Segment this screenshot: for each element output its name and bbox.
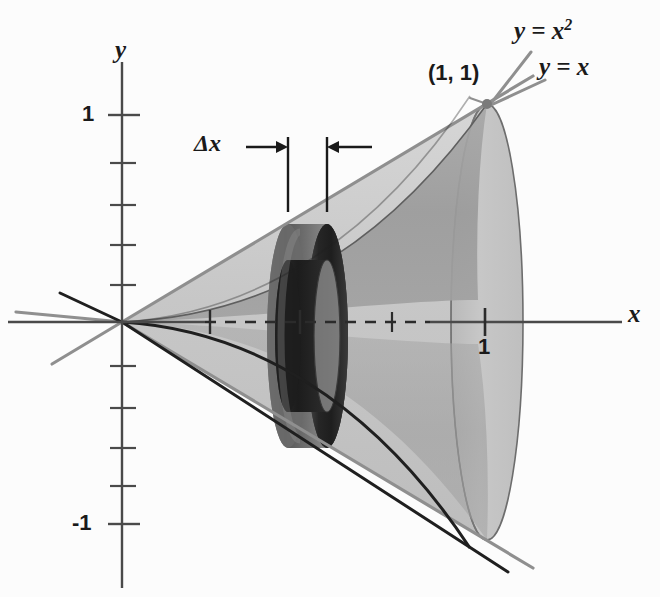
intersection-point-label: (1, 1) <box>428 60 479 86</box>
y-tick-label-1: 1 <box>82 101 94 127</box>
curve-label-parabola-text: y = x <box>514 17 564 44</box>
solid-of-revolution-figure: y x 1 -1 1 (1, 1) y = x2 y = x Δx <box>0 0 660 597</box>
curve-label-parabola-exponent: 2 <box>564 16 572 33</box>
curve-label-line: y = x <box>539 53 589 81</box>
label-leader-lines <box>470 52 545 109</box>
curve-label-parabola: y = x2 <box>514 16 572 45</box>
x-tick-label-1: 1 <box>478 334 490 360</box>
y-tick-label-neg1: -1 <box>72 510 92 536</box>
delta-x-label: Δx <box>194 130 221 157</box>
figure-canvas <box>0 0 660 597</box>
delta-x-arrowhead-right <box>276 141 288 153</box>
intersection-point-marker <box>482 99 492 109</box>
delta-x-arrowhead-left <box>327 141 339 153</box>
y-axis-label: y <box>115 36 126 64</box>
x-axis-label: x <box>628 300 641 328</box>
